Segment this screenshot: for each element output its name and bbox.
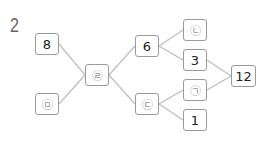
connector-lines [0,0,261,146]
node-3: 3 [183,49,207,71]
node-circled-giyeok: ㉠ [183,79,207,101]
node-circled-mieum: ㉤ [35,93,59,115]
node-6: 6 [135,35,159,57]
node-circled-nieun: ㉡ [183,19,207,41]
node-circled-digeut: ㉢ [135,93,159,115]
node-circled-rieul: ㉣ [85,64,109,86]
node-1: 1 [183,109,207,131]
node-8: 8 [35,33,59,55]
node-12: 12 [231,65,256,87]
